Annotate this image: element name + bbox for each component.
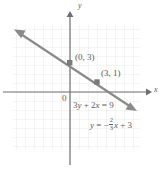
y-axis-label: y [78,2,82,10]
eq2-fraction: 23 [109,117,113,132]
y-axis-arrowhead [67,11,74,17]
eq2-equals: = [94,120,104,130]
x-axis-arrowhead [146,89,152,96]
coordinate-plane [0,0,164,171]
graph-figure: y x 0 (0, 3) (3, 1) 3y + 2x = 9 y = −23x… [0,0,164,171]
point-label-0-3: (0, 3) [75,53,95,62]
eq-rhs: 9 [109,100,114,110]
eq-equals: = [100,100,110,110]
point-marker-0-3 [67,60,72,65]
point-marker-3-1 [94,79,99,84]
equation-slope-intercept-form: y = −23x + 3 [90,117,132,132]
point-label-3-1: (3, 1) [101,69,121,78]
x-axis-label: x [154,86,158,94]
eq2-constant: 3 [127,120,132,130]
equation-standard-form: 3y + 2x = 9 [73,101,114,110]
eq-plus: + [82,100,92,110]
origin-label: 0 [62,94,67,103]
eq2-fraction-denominator: 3 [109,125,113,132]
eq2-minus: − [104,120,109,130]
